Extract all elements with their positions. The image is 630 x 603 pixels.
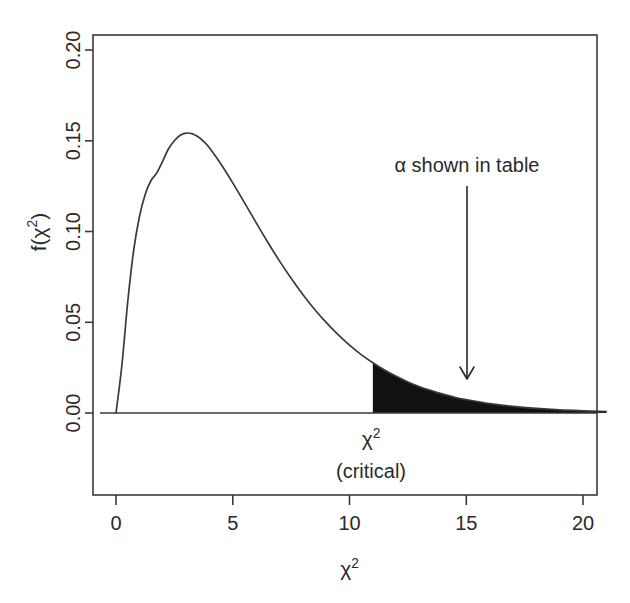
y-tick-label-2: 0.10 xyxy=(62,212,84,251)
x-tick-label-4: 20 xyxy=(572,512,594,534)
alpha-annotation-label: α shown in table xyxy=(395,154,540,176)
critical-value-word-label: (critical) xyxy=(336,460,406,482)
y-axis-title-chi: χ xyxy=(27,227,50,238)
y-tick-label-1: 0.05 xyxy=(62,303,84,342)
y-axis-tick-labels: 0.00 0.05 0.10 0.15 0.20 xyxy=(62,31,84,433)
critical-value-chi-label: χ2 xyxy=(362,425,381,450)
y-axis-title: f(χ2) xyxy=(24,213,50,252)
x-tick-label-1: 5 xyxy=(227,512,238,534)
x-axis-tick-labels: 0 5 10 15 20 xyxy=(110,512,594,534)
critical-chi-exponent: 2 xyxy=(373,425,381,441)
y-axis-title-f: f( xyxy=(27,238,50,251)
y-tick-label-3: 0.15 xyxy=(62,121,84,160)
y-tick-label-4: 0.20 xyxy=(62,31,84,70)
y-axis-title-close: ) xyxy=(27,213,50,220)
x-axis-title-chi: χ xyxy=(340,557,351,580)
critical-chi: χ xyxy=(362,427,373,450)
x-tick-label-3: 15 xyxy=(455,512,477,534)
annotation-arrow xyxy=(460,186,474,379)
x-tick-label-0: 0 xyxy=(110,512,121,534)
x-axis-ticks xyxy=(116,495,583,505)
y-axis-ticks xyxy=(85,50,93,413)
y-tick-label-0: 0.00 xyxy=(62,394,84,433)
chi-square-plot-svg: 0.00 0.05 0.10 0.15 0.20 f(χ2) 0 5 10 15 xyxy=(0,0,630,603)
x-tick-label-2: 10 xyxy=(338,512,360,534)
chart-figure: 0.00 0.05 0.10 0.15 0.20 f(χ2) 0 5 10 15 xyxy=(0,0,630,603)
svg-text:f(χ2): f(χ2) xyxy=(24,213,50,252)
plot-frame xyxy=(93,35,597,495)
x-axis-title: χ2 xyxy=(340,555,359,580)
shaded-critical-region xyxy=(373,363,606,413)
x-axis-title-exponent: 2 xyxy=(351,555,359,571)
